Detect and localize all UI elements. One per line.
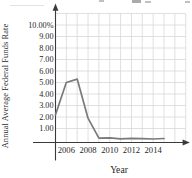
y-axis-title: Annual Average Federal Funds Rate: [1, 24, 10, 149]
cropped-text-remnant: [132, 0, 141, 3]
cropped-text-remnant: [10, 5, 44, 6]
y-tick-label: 8.00: [39, 44, 53, 53]
cropped-text-remnant: [99, 0, 104, 2]
x-tick-label: 2008: [79, 145, 96, 155]
y-tick-label: 3.00: [39, 101, 53, 110]
x-tick-label: 2010: [101, 145, 118, 155]
chart-region: 20062008201020122014 10.00%9.008.007.006…: [0, 0, 192, 178]
y-tick-label: 1.00: [39, 124, 53, 133]
y-tick-label: 10.00%: [28, 21, 53, 30]
federal-funds-rate-line-chart: 20062008201020122014 10.00%9.008.007.006…: [0, 0, 192, 178]
y-tick-label: 5.00: [39, 78, 53, 87]
x-tick-labels: 20062008201020122014: [58, 145, 163, 155]
x-tick-label: 2012: [123, 145, 140, 155]
x-tick-label: 2014: [145, 145, 163, 155]
x-tick-label: 2006: [58, 145, 76, 155]
gridlines: [56, 14, 186, 143]
y-tick-label: 9.00: [39, 32, 53, 41]
y-tick-label: 4.00: [39, 90, 53, 99]
axes: [33, 4, 190, 161]
y-tick-label: 7.00: [39, 55, 53, 64]
x-axis-arrow-icon: [183, 140, 190, 146]
y-tick-labels: 10.00%9.008.007.006.005.004.003.002.001.…: [28, 21, 53, 133]
cropped-text-remnant: [145, 1, 151, 3]
y-tick-label: 6.00: [39, 67, 53, 76]
y-axis-arrow-icon: [53, 4, 59, 11]
cropped-text-remnant: [185, 1, 190, 3]
y-tick-label: 2.00: [39, 113, 53, 122]
x-axis-title: Year: [110, 164, 128, 175]
